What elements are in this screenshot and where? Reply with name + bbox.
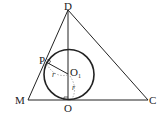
segment-DM (28, 10, 68, 100)
label-O: O (64, 102, 72, 114)
label-C: C (149, 94, 156, 106)
segment-DC (68, 10, 148, 100)
label-O1: O (70, 66, 78, 78)
label-D: D (64, 0, 72, 12)
label-O1-subscript: 1 (78, 73, 81, 79)
label-P: P (39, 54, 45, 66)
geometry-diagram: D M C O P O 1 r r (0, 0, 163, 116)
label-M: M (15, 94, 25, 106)
label-r-horizontal: r (52, 70, 56, 79)
label-r-vertical: r (72, 83, 76, 92)
dashed-arc-r1 (47, 64, 68, 76)
